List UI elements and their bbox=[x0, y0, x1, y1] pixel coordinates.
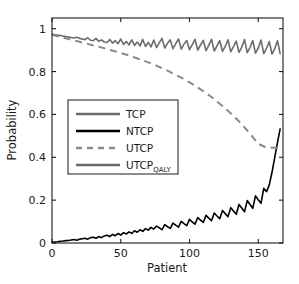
y-tick-label: 0.6 bbox=[29, 108, 47, 121]
chart-figure: 050100150 00.20.40.60.81 Patient Probabi… bbox=[0, 0, 299, 284]
legend-label: UTCP bbox=[126, 142, 153, 154]
x-tick-labels: 050100150 bbox=[49, 247, 269, 260]
y-axis-title: Probability bbox=[5, 99, 19, 160]
y-tick-label: 0.4 bbox=[29, 151, 47, 164]
y-tick-label: 0.8 bbox=[29, 66, 47, 79]
legend-box bbox=[68, 100, 178, 174]
y-tick-label: 0.2 bbox=[29, 194, 47, 207]
chart-legend: TCPNTCPUTCPUTCPQALY bbox=[68, 100, 178, 174]
series-line-tcp bbox=[52, 34, 280, 54]
probability-line-chart: 050100150 00.20.40.60.81 Patient Probabi… bbox=[0, 0, 299, 284]
y-tick-label: 0 bbox=[39, 237, 46, 250]
x-axis-title: Patient bbox=[147, 261, 188, 275]
y-tick-labels: 00.20.40.60.81 bbox=[29, 23, 47, 250]
x-tick-label: 150 bbox=[248, 247, 269, 260]
x-tick-label: 100 bbox=[179, 247, 200, 260]
x-tick-label: 0 bbox=[49, 247, 56, 260]
legend-label: TCP bbox=[125, 108, 145, 120]
y-tick-label: 1 bbox=[39, 23, 46, 36]
legend-label: NTCP bbox=[126, 125, 153, 137]
x-tick-label: 50 bbox=[114, 247, 128, 260]
